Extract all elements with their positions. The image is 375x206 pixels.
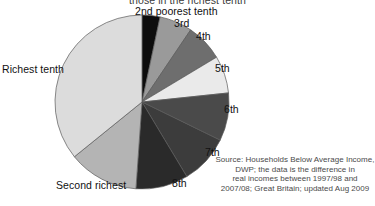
slice-label-third: 3rd xyxy=(174,18,189,29)
source-line-1: Source: Households Below Average Income, xyxy=(215,155,375,165)
pie-chart-figure: those in the richest tenth 2nd poorest t… xyxy=(0,0,375,206)
slice-label-sixth: 6th xyxy=(224,104,239,115)
source-line-3: real incomes between 1997/98 and xyxy=(215,174,375,184)
slice-label-fourth: 4th xyxy=(196,31,211,42)
slice-label-fifth: 5th xyxy=(215,63,230,74)
source-line-2: DWP; the data is the difference in xyxy=(215,165,375,175)
source-note: Source: Households Below Average Income,… xyxy=(215,155,375,193)
slice-label-eighth: 8th xyxy=(172,178,187,189)
source-line-4: 2007/08; Great Britain; updated Aug 2009 xyxy=(215,184,375,194)
slice-label-second-poorest-tenth: 2nd poorest tenth xyxy=(135,6,218,17)
slice-label-second-richest: Second richest xyxy=(56,180,126,191)
slice-label-richest-tenth: Richest tenth xyxy=(2,64,64,75)
